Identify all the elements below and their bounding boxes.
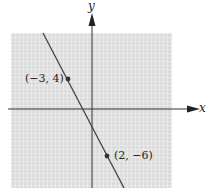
point-label-2-neg6: (2, −6) [114, 149, 153, 162]
y-axis-label: y [88, 0, 95, 13]
point-neg3-4 [66, 77, 71, 82]
coordinate-plane [0, 0, 210, 188]
point-label-neg3-4: (−3, 4) [25, 72, 64, 85]
point-2-neg6 [105, 154, 110, 159]
x-axis-label: x [199, 101, 206, 115]
y-axis-arrow-icon [89, 13, 96, 26]
